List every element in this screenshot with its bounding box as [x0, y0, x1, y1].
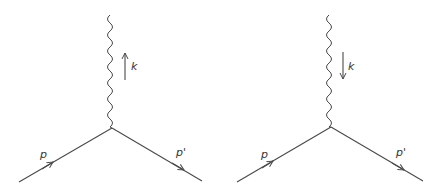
photon-wavy-line: [108, 15, 113, 128]
incoming-arrow: [42, 162, 53, 169]
outgoing-momentum-label: p': [395, 146, 406, 159]
outgoing-fermion-line: [331, 127, 423, 181]
outgoing-fermion-line: [112, 128, 202, 181]
incoming-momentum-label: p: [260, 148, 268, 161]
incoming-momentum-label: p: [39, 148, 47, 161]
outgoing-arrow: [172, 163, 184, 170]
photon-label: k: [131, 60, 138, 73]
outgoing-arrow: [392, 163, 404, 170]
outgoing-momentum-label: p': [175, 146, 186, 159]
incoming-arrow: [262, 161, 273, 168]
incoming-fermion-line: [237, 127, 331, 182]
feynman-diagram-left: k p p': [19, 15, 202, 182]
photon-wavy-line: [327, 15, 332, 127]
photon-label: k: [348, 60, 355, 73]
incoming-fermion-line: [19, 128, 112, 182]
feynman-diagram-right: k p p': [237, 15, 423, 182]
